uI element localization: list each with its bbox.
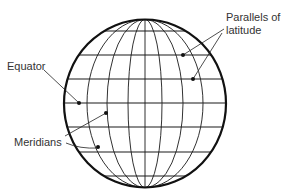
parallels-label-line2: latitude bbox=[226, 24, 261, 36]
meridian-leader bbox=[65, 113, 106, 136]
parallel-dot bbox=[181, 53, 185, 57]
equator-leader bbox=[44, 70, 79, 103]
equator-label: Equator bbox=[7, 60, 46, 72]
leader-lines bbox=[44, 29, 224, 148]
meridian-dot bbox=[96, 145, 100, 149]
meridians-label: Meridians bbox=[14, 136, 62, 148]
parallels-label-line1: Parallels of bbox=[226, 11, 280, 23]
globe-diagram: Parallels of latitude Equator Meridians bbox=[0, 0, 285, 196]
marker-dots bbox=[77, 53, 195, 149]
parallel-dot bbox=[191, 77, 195, 81]
meridian-leader bbox=[66, 143, 98, 148]
equator-dot bbox=[77, 101, 81, 105]
meridian-dot bbox=[104, 111, 108, 115]
